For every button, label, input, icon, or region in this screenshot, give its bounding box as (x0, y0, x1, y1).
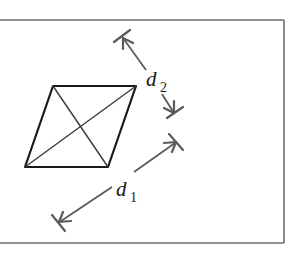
d2-upper-arrowhead-icon (114, 30, 133, 49)
dimension-arrow-d2: d2 (114, 30, 183, 118)
d2-line-upper (123, 38, 146, 70)
d1-lower-arrowhead-icon (52, 212, 71, 231)
diagonal-short (53, 86, 108, 167)
d1-label: d1 (116, 177, 137, 205)
d2-lower-arrowhead-icon (164, 101, 183, 118)
frame (0, 20, 284, 243)
d1-line-lower (61, 187, 112, 221)
rhombus-diagonals-diagram: d2 d1 (0, 0, 293, 255)
d1-line-upper (134, 143, 175, 172)
d2-label: d2 (146, 67, 167, 95)
dimension-arrow-d1: d1 (52, 134, 183, 231)
rhombus (25, 86, 136, 167)
